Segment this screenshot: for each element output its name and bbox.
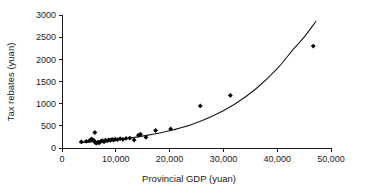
x-tick-label: 20,000: [156, 154, 184, 164]
x-tick-label: 50,000: [317, 154, 345, 164]
scatter-chart: 050010001500200025003000 010,00020,00030…: [0, 0, 378, 190]
y-axis-tick-marks: [59, 15, 63, 148]
x-tick-label: 10,000: [102, 154, 130, 164]
y-tick-label: 2000: [36, 55, 56, 65]
data-point: [228, 93, 233, 98]
x-tick-label: 40,000: [263, 154, 291, 164]
data-point: [79, 139, 84, 144]
y-axis-title: Tax rebates (yuan): [5, 43, 16, 122]
y-tick-label: 0: [51, 143, 56, 153]
data-point: [198, 103, 203, 108]
y-axis-tick-labels: 050010001500200025003000: [36, 10, 56, 153]
x-axis-tick-marks: [62, 148, 331, 152]
chart-canvas: 050010001500200025003000 010,00020,00030…: [0, 0, 378, 190]
y-tick-label: 2500: [36, 32, 56, 42]
data-point: [311, 44, 316, 49]
y-tick-label: 3000: [36, 10, 56, 20]
x-tick-label: 0: [59, 154, 64, 164]
trend-line: [80, 21, 316, 142]
data-point: [127, 136, 132, 141]
x-axis-title: Provincial GDP (yuan): [142, 173, 236, 184]
data-point: [153, 128, 158, 133]
x-axis-tick-labels: 010,00020,00030,00040,00050,000: [59, 154, 344, 164]
data-point: [92, 130, 97, 135]
data-point-series: [79, 44, 316, 146]
y-tick-label: 500: [41, 121, 56, 131]
y-tick-label: 1000: [36, 99, 56, 109]
y-tick-label: 1500: [36, 77, 56, 87]
x-tick-label: 30,000: [210, 154, 238, 164]
data-point: [132, 138, 137, 143]
